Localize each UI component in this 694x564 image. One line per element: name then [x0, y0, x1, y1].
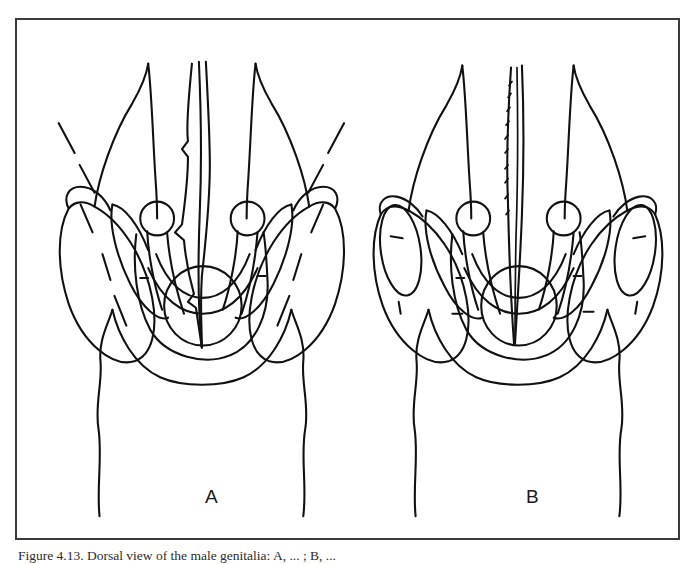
figure-frame: A B: [15, 18, 680, 540]
panel-label-a: A: [205, 486, 218, 508]
panel-b-drawing: [374, 66, 663, 517]
figure-line-drawing: [17, 20, 678, 538]
figure-caption: Figure 4.13. Dorsal view of the male gen…: [18, 548, 678, 564]
panel-label-b: B: [526, 486, 539, 508]
panel-a-drawing: [59, 62, 344, 516]
